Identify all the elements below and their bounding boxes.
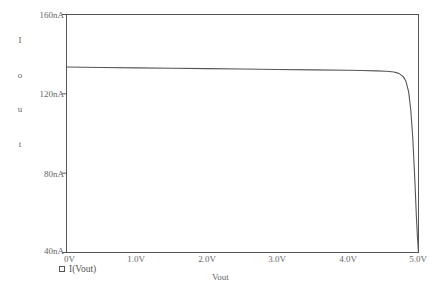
chart-svg: [0, 0, 440, 297]
y-tick-160: 160nA: [20, 10, 64, 21]
legend-label-ivout: I(Vout): [69, 264, 96, 274]
y-axis-ticks: [62, 15, 67, 253]
plot-canvas: I o u t 160nA 120nA 80nA 40nA 0V 1.0V 2.…: [0, 0, 440, 297]
y-axis-title-char-3: u: [13, 104, 27, 116]
y-axis-title-char-4: t: [13, 139, 27, 151]
x-tick-0: 0V: [64, 254, 104, 264]
legend[interactable]: I(Vout): [59, 264, 96, 274]
y-tick-label: 40nA: [22, 246, 64, 256]
x-tick-1: 1.0V: [116, 254, 156, 264]
x-tick-4: 4.0V: [328, 254, 368, 264]
x-tick-3: 3.0V: [257, 254, 297, 264]
y-tick-label: 120nA: [22, 89, 64, 99]
x-axis-title: Vout: [212, 272, 229, 282]
plot-frame: [67, 15, 419, 253]
y-axis-title-char-2: o: [13, 70, 27, 82]
y-tick-120: 120nA: [20, 89, 64, 100]
y-axis-title-char-1: I: [13, 35, 27, 47]
series-line-ivout: [67, 67, 419, 252]
legend-marker-square-icon: [59, 266, 65, 272]
plot-frame-rect: [67, 15, 419, 253]
y-tick-label: 80nA: [22, 169, 64, 179]
y-tick-label: 160nA: [22, 10, 64, 20]
y-tick-40: 40nA: [20, 246, 64, 257]
data-series-group: [67, 67, 419, 252]
y-tick-80: 80nA: [20, 169, 64, 180]
x-tick-2: 2.0V: [187, 254, 227, 264]
x-tick-5: 5.0V: [398, 254, 438, 264]
